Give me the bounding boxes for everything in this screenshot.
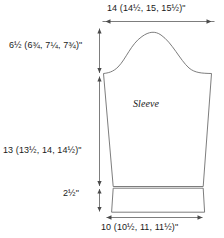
cuff-dimension-arrow-bottom <box>97 207 101 212</box>
length-dimension-arrow-top <box>97 77 101 82</box>
sleeve-outline-svg <box>0 0 224 238</box>
length-dimension-arrow-bottom <box>97 181 101 186</box>
sleeve-schematic: 14 (14½, 15, 15½)" 6½ (6¾, 7¼, 7¾)" 13 (… <box>0 0 224 238</box>
cap-dimension-arrow-top <box>97 29 101 34</box>
cuff-right-edge <box>203 188 204 212</box>
bottom-dimension-arrow-left <box>107 215 112 219</box>
sleeve-cap-curve <box>104 32 212 73</box>
sleeve-length-label: 13 (13½, 14, 14½)" <box>3 145 82 156</box>
cap-height-label: 6½ (6¾, 7¼, 7¾)" <box>9 40 82 51</box>
bottom-dimension-arrow-right <box>198 215 203 219</box>
cuff-left-edge <box>112 188 114 212</box>
cap-dimension-arrow-bottom <box>97 68 101 73</box>
top-dimension-arrow-left <box>106 19 111 23</box>
top-dimension-arrow-right <box>207 19 212 23</box>
bottom-width-label: 10 (10½, 11, 11½)" <box>101 222 178 233</box>
sleeve-right-seam <box>203 74 211 187</box>
cuff-dimension-arrow-top <box>97 189 101 194</box>
cuff-height-label: 2½" <box>63 188 79 199</box>
top-width-label: 14 (14½, 15, 15½)" <box>107 3 186 14</box>
sleeve-left-seam <box>104 74 114 187</box>
sleeve-body-label: Sleeve <box>133 98 159 109</box>
